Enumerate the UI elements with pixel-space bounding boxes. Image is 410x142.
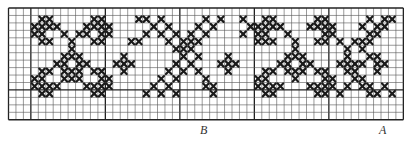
cross-stitch-icon xyxy=(389,16,394,21)
cross-stitch-icon xyxy=(218,16,223,21)
cross-stitch-icon xyxy=(203,31,208,36)
cross-stitch-icon xyxy=(263,39,268,44)
cross-stitch-chart xyxy=(0,0,410,142)
cross-stitch-icon xyxy=(62,61,67,66)
cross-stitch-icon xyxy=(84,31,89,36)
cross-stitch-icon xyxy=(360,84,365,89)
cross-stitch-icon xyxy=(337,91,342,96)
cross-stitch-icon xyxy=(375,24,380,29)
cross-stitch-icon xyxy=(144,31,149,36)
cross-stitch-icon xyxy=(151,24,156,29)
cross-stitch-icon xyxy=(91,69,96,74)
cross-stitch-icon xyxy=(270,24,275,29)
cross-stitch-icon xyxy=(345,61,350,66)
cross-stitch-icon xyxy=(263,31,268,36)
cross-stitch-icon xyxy=(255,76,260,81)
cross-stitch-icon xyxy=(77,61,82,66)
cross-stitch-icon xyxy=(91,91,96,96)
cross-stitch-icon xyxy=(360,39,365,44)
cross-stitch-icon xyxy=(99,39,104,44)
cross-stitch-icon xyxy=(62,31,67,36)
cross-stitch-icon xyxy=(62,54,67,59)
cross-stitch-icon xyxy=(270,91,275,96)
cross-stitch-icon xyxy=(352,76,357,81)
cross-stitch-icon xyxy=(375,31,380,36)
cross-stitch-icon xyxy=(47,69,52,74)
cross-stitch-icon xyxy=(77,31,82,36)
cross-stitch-icon xyxy=(345,69,350,74)
cross-stitch-icon xyxy=(367,16,372,21)
cross-stitch-icon xyxy=(293,76,298,81)
cross-stitch-icon xyxy=(47,16,52,21)
cross-stitch-icon xyxy=(263,24,268,29)
cross-stitch-icon xyxy=(382,61,387,66)
cross-stitch-icon xyxy=(181,39,186,44)
cross-stitch-icon xyxy=(375,69,380,74)
cross-stitch-icon xyxy=(203,76,208,81)
cross-stitch-icon xyxy=(39,76,44,81)
cross-stitch-icon xyxy=(77,54,82,59)
cross-stitch-icon xyxy=(382,84,387,89)
cross-stitch-icon xyxy=(106,31,111,36)
cross-stitch-icon xyxy=(129,61,134,66)
cross-stitch-icon xyxy=(69,69,74,74)
cross-stitch-icon xyxy=(211,91,216,96)
cross-stitch-icon xyxy=(32,24,37,29)
cross-stitch-icon xyxy=(315,84,320,89)
cross-stitch-icon xyxy=(300,69,305,74)
cross-stitch-icon xyxy=(91,16,96,21)
cross-stitch-icon xyxy=(203,84,208,89)
cross-stitch-icon xyxy=(308,24,313,29)
cross-stitch-icon xyxy=(188,61,193,66)
cross-stitch-icon xyxy=(114,61,119,66)
cross-stitch-icon xyxy=(345,54,350,59)
cross-stitch-icon xyxy=(173,91,178,96)
cross-stitch-icon xyxy=(233,61,238,66)
cross-stitch-icon xyxy=(181,54,186,59)
cross-stitch-icon xyxy=(159,76,164,81)
cross-stitch-icon xyxy=(367,84,372,89)
cross-stitch-icon xyxy=(91,39,96,44)
cross-stitch-icon xyxy=(285,61,290,66)
cross-stitch-icon xyxy=(345,46,350,51)
cross-stitch-icon xyxy=(39,84,44,89)
marker-label-a: A xyxy=(379,123,386,138)
cross-stitch-icon xyxy=(226,54,231,59)
cross-stitch-icon xyxy=(69,76,74,81)
cross-stitch-icon xyxy=(173,61,178,66)
cross-stitch-icon xyxy=(352,69,357,74)
marker-label-b: B xyxy=(200,123,207,138)
cross-stitch-icon xyxy=(91,24,96,29)
cross-stitch-icon xyxy=(293,54,298,59)
cross-stitch-icon xyxy=(375,54,380,59)
cross-stitch-icon xyxy=(315,39,320,44)
cross-stitch-icon xyxy=(367,31,372,36)
cross-stitch-icon xyxy=(330,24,335,29)
cross-stitch-icon xyxy=(293,39,298,44)
cross-stitch-icon xyxy=(322,31,327,36)
cross-stitch-icon xyxy=(39,31,44,36)
cross-stitch-icon xyxy=(322,24,327,29)
cross-stitch-icon xyxy=(240,16,245,21)
cross-stitch-icon xyxy=(69,39,74,44)
cross-stitch-icon xyxy=(47,91,52,96)
cross-stitch-icon xyxy=(47,39,52,44)
cross-stitch-icon xyxy=(166,69,171,74)
cross-stitch-icon xyxy=(322,91,327,96)
cross-stitch-icon xyxy=(278,84,283,89)
cross-stitch-icon xyxy=(196,69,201,74)
cross-stitch-icon xyxy=(330,84,335,89)
cross-stitch-icon xyxy=(196,54,201,59)
cross-stitch-icon xyxy=(121,61,126,66)
cross-stitch-icon xyxy=(270,69,275,74)
cross-stitch-icon xyxy=(352,39,357,44)
cross-stitch-icon xyxy=(248,24,253,29)
cross-stitch-icon xyxy=(77,69,82,74)
cross-stitch-icon xyxy=(218,61,223,66)
cross-stitch-icon xyxy=(337,39,342,44)
cross-stitch-icon xyxy=(106,24,111,29)
cross-stitch-icon xyxy=(47,84,52,89)
cross-stitch-icon xyxy=(382,24,387,29)
cross-stitch-icon xyxy=(39,91,44,96)
cross-stitch-icon xyxy=(322,69,327,74)
